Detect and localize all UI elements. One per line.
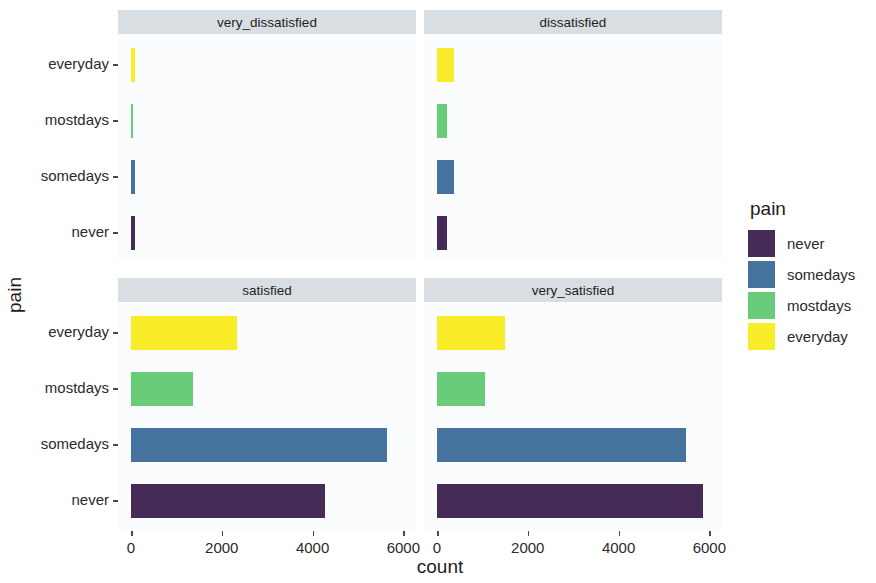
- plot-area: [424, 34, 722, 262]
- bar-mostdays: [131, 372, 193, 406]
- facet-panel: satisfied: [118, 278, 416, 530]
- x-tick-label: 6000: [693, 539, 726, 556]
- facet-strip-label: dissatisfied: [424, 10, 722, 34]
- x-tick-mark: [131, 531, 133, 536]
- facet-panel: very_satisfied: [424, 278, 722, 530]
- x-tick-mark: [528, 531, 530, 536]
- legend-items: neversomedaysmostdayseveryday: [748, 228, 855, 352]
- bar-somedays: [131, 428, 387, 462]
- bar-never: [131, 216, 135, 250]
- y-tick-mark: [113, 120, 118, 122]
- y-tick-mark: [113, 332, 118, 334]
- x-tick-label: 0: [127, 539, 135, 556]
- x-tick-label: 0: [433, 539, 441, 556]
- bar-never: [437, 216, 447, 250]
- bar-everyday: [131, 48, 135, 82]
- facet-panel: very_dissatisfied: [118, 10, 416, 262]
- facet-strip-label: very_dissatisfied: [118, 10, 416, 34]
- bar-mostdays: [131, 104, 133, 138]
- x-tick-mark: [313, 531, 315, 536]
- y-tick-mark: [113, 176, 118, 178]
- bar-mostdays: [437, 104, 447, 138]
- x-tick-mark: [222, 531, 224, 536]
- x-tick-label: 2000: [205, 539, 238, 556]
- x-axis-title: count: [130, 556, 750, 578]
- chart-figure: pain count very_dissatisfieddissatisfied…: [0, 0, 876, 583]
- y-tick-label-never: never: [0, 223, 109, 240]
- legend-title: pain: [750, 198, 855, 220]
- x-tick-label: 6000: [387, 539, 420, 556]
- legend-item-everyday: everyday: [748, 321, 855, 352]
- bar-everyday: [437, 48, 454, 82]
- legend-item-never: never: [748, 228, 855, 259]
- bar-somedays: [437, 428, 686, 462]
- plot-area: [118, 34, 416, 262]
- x-tick-mark: [437, 531, 439, 536]
- y-tick-label-mostdays: mostdays: [0, 111, 109, 128]
- bar-everyday: [437, 316, 505, 350]
- legend-swatch-mostdays: [748, 292, 775, 319]
- bar-everyday: [131, 316, 237, 350]
- y-tick-label-mostdays: mostdays: [0, 379, 109, 396]
- x-tick-mark: [709, 531, 711, 536]
- bar-never: [437, 484, 703, 518]
- y-axis-title-text: pain: [4, 277, 26, 313]
- legend-item-mostdays: mostdays: [748, 290, 855, 321]
- legend: pain neversomedaysmostdayseveryday: [748, 198, 855, 352]
- facet-strip-label: satisfied: [118, 278, 416, 302]
- x-tick-label: 4000: [296, 539, 329, 556]
- y-tick-mark: [113, 232, 118, 234]
- y-tick-label-everyday: everyday: [0, 323, 109, 340]
- bar-somedays: [437, 160, 454, 194]
- x-tick-mark: [403, 531, 405, 536]
- y-tick-mark: [113, 444, 118, 446]
- y-tick-label-somedays: somedays: [0, 167, 109, 184]
- legend-swatch-somedays: [748, 261, 775, 288]
- facet-strip-label: very_satisfied: [424, 278, 722, 302]
- legend-label-mostdays: mostdays: [787, 297, 851, 314]
- y-tick-mark: [113, 500, 118, 502]
- legend-item-somedays: somedays: [748, 259, 855, 290]
- y-tick-label-never: never: [0, 491, 109, 508]
- plot-area: [424, 302, 722, 530]
- bar-never: [131, 484, 325, 518]
- legend-label-never: never: [787, 235, 825, 252]
- plot-area: [118, 302, 416, 530]
- bar-mostdays: [437, 372, 485, 406]
- x-tick-label: 2000: [511, 539, 544, 556]
- y-tick-mark: [113, 64, 118, 66]
- bar-somedays: [131, 160, 135, 194]
- x-tick-mark: [619, 531, 621, 536]
- legend-swatch-everyday: [748, 323, 775, 350]
- y-tick-label-somedays: somedays: [0, 435, 109, 452]
- facet-panel: dissatisfied: [424, 10, 722, 262]
- legend-label-somedays: somedays: [787, 266, 855, 283]
- legend-label-everyday: everyday: [787, 328, 848, 345]
- y-tick-label-everyday: everyday: [0, 55, 109, 72]
- legend-swatch-never: [748, 230, 775, 257]
- x-tick-label: 4000: [602, 539, 635, 556]
- y-tick-mark: [113, 388, 118, 390]
